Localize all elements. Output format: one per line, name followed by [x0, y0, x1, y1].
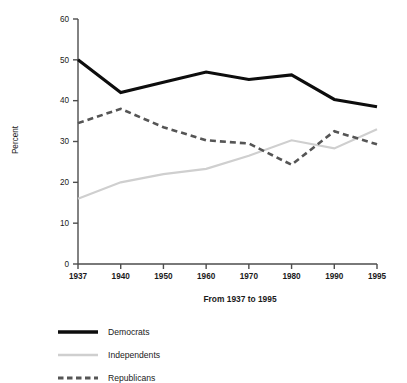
y-axis-tick-label: 0 — [64, 260, 69, 269]
legend-label-independents: Independents — [108, 350, 160, 360]
legend-label-republicans: Republicans — [108, 373, 155, 383]
x-axis-tick-label: 1970 — [240, 272, 259, 281]
y-axis-tick-label: 20 — [60, 178, 70, 187]
x-axis-tick-label: 1937 — [69, 272, 88, 281]
x-axis-tick-label: 1940 — [112, 272, 131, 281]
chart-figure: 0102030405060193719401950196019701980199… — [0, 0, 407, 383]
y-axis-tick-label: 30 — [60, 137, 70, 146]
series-line-democrats — [78, 60, 377, 107]
chart-series — [78, 60, 377, 199]
y-axis-title: Percent — [11, 125, 20, 154]
x-axis-tick-label: 1995 — [368, 272, 387, 281]
chart-legend: DemocratsIndependentsRepublicans — [58, 327, 160, 383]
x-axis-tick-label: 1960 — [197, 272, 216, 281]
legend-label-democrats: Democrats — [108, 327, 150, 337]
party-identification-line-chart: 0102030405060193719401950196019701980199… — [0, 0, 407, 383]
x-axis-tick-label: 1950 — [154, 272, 173, 281]
x-axis-title: From 1937 to 1995 — [203, 294, 276, 304]
y-axis-tick-label: 10 — [60, 219, 70, 228]
x-axis-tick-label: 1990 — [325, 272, 344, 281]
series-line-independents — [78, 129, 377, 198]
series-line-republicans — [78, 109, 377, 165]
x-axis-title-text: From 1937 to 1995 — [203, 294, 276, 304]
x-axis-tick-label: 1980 — [282, 272, 301, 281]
y-axis-title-text: Percent — [11, 125, 20, 154]
y-axis-tick-label: 40 — [60, 96, 70, 105]
y-axis-tick-label: 50 — [60, 56, 70, 65]
y-axis-tick-label: 60 — [60, 15, 70, 24]
